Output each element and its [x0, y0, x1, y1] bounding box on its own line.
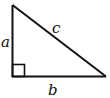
- label-b: b: [48, 81, 58, 98]
- hypotenuse-c: [13, 5, 107, 77]
- triangle: [12, 5, 106, 77]
- right-triangle-diagram: a c b: [0, 0, 110, 98]
- label-a: a: [1, 33, 10, 51]
- right-angle-marker: [13, 65, 25, 77]
- label-c: c: [52, 19, 61, 37]
